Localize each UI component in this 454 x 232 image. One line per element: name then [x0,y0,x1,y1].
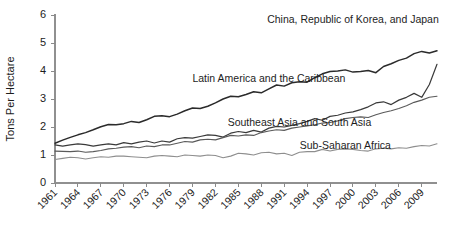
x-axis-tick-label: 2009 [401,186,426,211]
x-axis-tick-label: 1973 [126,186,151,211]
series-label-southeast-south-asia: Southeast Asia and South Asia [228,116,372,128]
x-axis-tick-label: 1997 [309,186,334,211]
x-axis-tick-label: 1979 [172,186,197,211]
x-axis-tick-label: 1964 [57,186,82,211]
x-axis-tick-label: 2000 [332,186,357,211]
y-axis-tick-label: 0 [40,176,46,188]
y-axis-tick-label: 6 [40,8,46,20]
series-label-china-korea-japan: China, Republic of Korea, and Japan [267,13,439,25]
x-axis-tick-label: 2006 [378,186,403,211]
x-axis-tick-label: 1994 [287,186,312,211]
chart-figure: 0123456 19611964196719701973197619791982… [0,0,454,232]
x-axis-tick-label: 2003 [355,186,380,211]
series-label-latin-america-caribbean: Latin America and the Caribbean [192,72,345,84]
y-axis: 0123456 [40,8,55,188]
x-axis-tick-label: 1976 [149,186,174,211]
x-axis-tick-label: 1985 [218,186,243,211]
x-axis-tick-label: 1988 [241,186,266,211]
x-axis-tick-label: 1961 [34,186,59,211]
x-axis-tick-label: 1970 [103,186,128,211]
x-axis-tick-label: 1967 [80,186,105,211]
x-axis: 1961196419671970197319761979198219851988… [34,183,437,211]
line-chart: 0123456 19611964196719701973197619791982… [0,0,454,232]
series-line-0 [55,51,437,143]
y-axis-tick-label: 5 [40,36,46,48]
x-axis-tick-label: 1982 [195,186,220,211]
y-axis-tick-label: 4 [40,64,46,76]
series-annotations: China, Republic of Korea, and JapanLatin… [192,13,438,151]
y-axis-tick-label: 3 [40,92,46,104]
y-axis-tick-label: 2 [40,120,46,132]
x-axis-tick-label: 1991 [264,186,289,211]
y-axis-title-text: Tons Per Hectare [4,57,16,142]
y-axis-title: Tons Per Hectare [4,57,16,142]
y-axis-tick-label: 1 [40,148,46,160]
series-label-sub-saharan-africa: Sub-Saharan Africa [300,139,391,151]
